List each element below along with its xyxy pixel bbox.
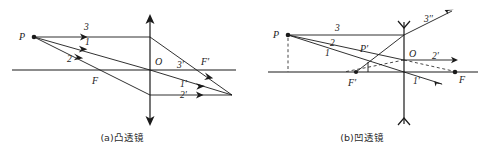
label-ray-2-out-b: 2′ (432, 51, 440, 61)
label-F-prime-a: F′ (200, 56, 210, 67)
ray-3-refracted-a (150, 37, 232, 95)
ray-2-to-focus-dash-b (404, 60, 453, 71)
ray-2-arrow-a (74, 54, 83, 61)
label-P-prime-b: P′ (359, 43, 369, 54)
label-ray-1-out-a: 1′ (180, 79, 188, 89)
ray-2-virtual-extension-b (344, 60, 404, 72)
label-ray-2-out-a: 2′ (180, 90, 188, 100)
label-ray-1-out-b: 1′ (413, 76, 421, 86)
label-ray-3-out-a: 3′ (176, 60, 185, 70)
label-P-b: P (272, 29, 279, 40)
ray-1-refracted-arrow-a (196, 83, 205, 89)
panel-a-convex: P 3 1 2 F O 3′ F′ 1′ 2′ (12, 14, 236, 126)
caption-panel-b: (b)凹透镜 (302, 130, 422, 144)
ray-2-incident-a (34, 37, 150, 95)
ray-1-incident-b (288, 35, 404, 72)
focus-right-point-b (453, 70, 458, 75)
label-ray-3-a: 3 (83, 22, 89, 32)
ray-1-refracted-a (150, 70, 232, 95)
panel-b-concave: P 3 2 1 P′ O 3′′ 2′ 1′ F′ F (268, 10, 478, 125)
label-ray-3-out-b: 3′′ (423, 14, 434, 24)
label-P-a: P (18, 31, 25, 42)
label-ray-1-b: 1 (325, 48, 330, 58)
label-O-a: O (155, 56, 162, 67)
label-F-prime-b: F′ (347, 77, 357, 88)
label-F-b: F (458, 74, 466, 85)
ray-2-incident-b (288, 35, 404, 60)
focus-left-point-b (354, 70, 358, 74)
label-ray-1-a: 1 (85, 37, 90, 47)
caption-panel-a: (a)凸透镜 (62, 130, 182, 144)
label-O-b: O (409, 48, 416, 59)
ray-1-incident-a (34, 37, 150, 70)
label-ray-2-a: 2 (67, 54, 72, 64)
label-ray-2-b: 2 (330, 38, 335, 48)
figure-root: P 3 1 2 F O 3′ F′ 1′ 2′ (0, 0, 488, 153)
label-F-a: F (91, 75, 99, 86)
label-ray-3-b: 3 (334, 23, 340, 33)
